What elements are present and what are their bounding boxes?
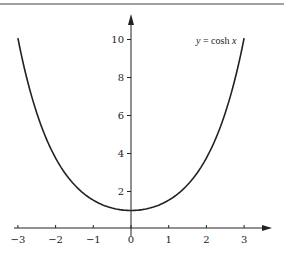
y-tick-label: 4 <box>118 148 124 159</box>
y-tick-label: 10 <box>111 34 124 45</box>
x-tick-label: −1 <box>86 234 101 245</box>
y-axis-arrow-icon <box>128 14 134 25</box>
y-tick-label: 6 <box>118 110 124 121</box>
y-tick-label: 2 <box>118 186 124 197</box>
x-tick-label: 1 <box>166 234 172 245</box>
curve-annotation: y = cosh x <box>195 35 237 46</box>
x-tick-label: −2 <box>48 234 63 245</box>
x-tick-label: 0 <box>128 234 134 245</box>
x-tick-label: −3 <box>11 234 26 245</box>
x-tick-label: 3 <box>241 234 247 245</box>
x-axis-arrow-icon <box>262 225 272 231</box>
y-tick-label: 8 <box>118 72 124 83</box>
chart-canvas: −3−2−10123246810 y = cosh x <box>0 0 284 262</box>
x-tick-label: 2 <box>203 234 209 245</box>
